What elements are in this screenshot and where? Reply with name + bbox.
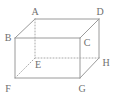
vertex-label-a: A — [31, 6, 39, 17]
edge-layer — [15, 19, 99, 78]
vertex-label-g: G — [78, 83, 85, 94]
vertex-label-c: C — [84, 37, 91, 48]
vertex-label-e: E — [35, 59, 41, 70]
cuboid-figure: ABCDEFGH — [0, 0, 117, 100]
vertex-label-h: H — [102, 57, 109, 68]
cuboid-svg-canvas: ABCDEFGH — [0, 0, 117, 100]
edge-ef — [15, 58, 35, 78]
vertex-label-f: F — [5, 83, 11, 94]
vertex-label-d: D — [96, 6, 103, 17]
vertex-label-b: B — [5, 32, 12, 43]
edge-ab — [15, 19, 35, 38]
edge-dc — [80, 19, 99, 38]
edge-gh — [80, 58, 99, 78]
